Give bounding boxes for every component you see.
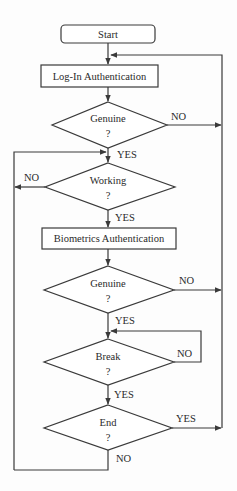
working-q: ? xyxy=(106,190,111,201)
break-no-label: NO xyxy=(177,348,193,359)
genuine2-no-label: NO xyxy=(179,275,195,286)
biometrics-node: Biometrics Authentication xyxy=(42,228,176,249)
end-no-label: NO xyxy=(116,453,132,464)
genuine1-yes-label: YES xyxy=(117,149,137,160)
end-q: ? xyxy=(106,432,111,443)
genuine2-yes-label: YES xyxy=(115,315,135,326)
end-label: End xyxy=(100,417,118,428)
genuine2-q: ? xyxy=(106,293,111,304)
end-node: End ? xyxy=(44,405,172,450)
genuine1-q: ? xyxy=(106,128,111,139)
working-yes-label: YES xyxy=(115,212,135,223)
start-label: Start xyxy=(98,29,118,40)
start-node: Start xyxy=(61,25,155,43)
genuine1-node: Genuine ? xyxy=(52,102,167,148)
edge-end-no xyxy=(14,450,108,470)
break-label: Break xyxy=(95,351,121,362)
break-node: Break ? xyxy=(44,339,174,385)
working-label: Working xyxy=(90,175,127,186)
login-label: Log-In Authentication xyxy=(53,71,147,82)
biometrics-label: Biometrics Authentication xyxy=(54,233,165,244)
break-yes-label: YES xyxy=(114,389,134,400)
end-yes-label: YES xyxy=(176,413,196,424)
working-node: Working ? xyxy=(45,163,175,210)
login-node: Log-In Authentication xyxy=(41,65,158,87)
genuine1-label: Genuine xyxy=(90,113,126,124)
break-q: ? xyxy=(106,366,111,377)
genuine2-node: Genuine ? xyxy=(44,266,174,313)
working-no-label: NO xyxy=(24,172,40,183)
genuine1-no-label: NO xyxy=(171,111,187,122)
flowchart: Start Log-In Authentication Genuine ? NO… xyxy=(0,0,237,491)
genuine2-label: Genuine xyxy=(90,278,126,289)
